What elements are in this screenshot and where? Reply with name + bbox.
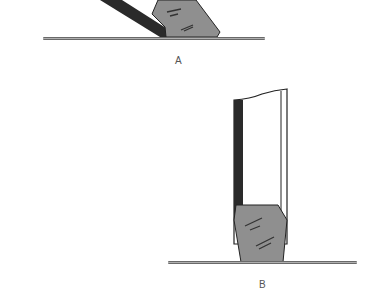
panel-a-label: A (175, 55, 182, 66)
panel-b-wedge (234, 205, 287, 262)
panel-b-label: B (259, 279, 266, 290)
diagram-canvas (0, 0, 376, 296)
panel-b-illustration (168, 89, 357, 264)
panel-b-dark-edge (234, 100, 243, 220)
panel-a-illustration (43, 0, 265, 40)
